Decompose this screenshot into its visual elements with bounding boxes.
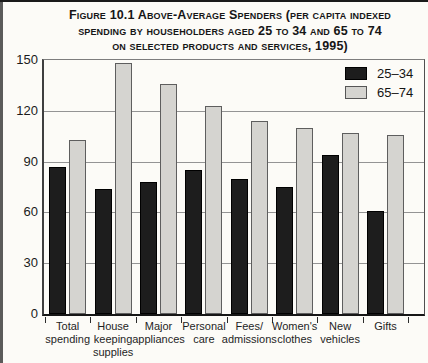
bar-age-25-34 [231,179,248,314]
legend-label: 25–34 [377,66,413,81]
plot-area: 25–34 65–74 [42,59,425,316]
bar-age-65-74 [387,135,404,314]
figure-title-line-2: spending by householders aged 25 to 34 a… [34,24,426,40]
legend-label: 65–74 [377,85,413,100]
bar-age-25-34 [276,187,293,314]
bar-age-65-74 [205,106,222,314]
figure-title-line-1: Figure 10.1 Above-Average Spenders (per … [34,8,426,24]
gridline [44,111,424,112]
bar-age-65-74 [115,63,132,314]
x-axis-label-line: supplies [80,346,146,359]
bar-age-65-74 [296,128,313,314]
legend: 25–34 65–74 [345,66,413,104]
y-axis-label: 120 [4,103,38,119]
bar-age-25-34 [49,167,66,314]
bar-age-65-74 [69,140,86,314]
bar-age-25-34 [322,155,339,314]
x-axis-label-line: vehicles [307,333,373,346]
figure-title-line-3: on selected products and services, 1995) [34,39,426,55]
y-axis-label: 90 [4,154,38,170]
bar-age-25-34 [367,211,384,314]
bar-age-25-34 [185,170,202,314]
x-axis-label-line: Gifts [353,320,419,333]
bar-age-25-34 [140,182,157,314]
bar-age-25-34 [95,189,112,314]
legend-swatch-age-25-34 [345,67,367,80]
bar-age-65-74 [160,84,177,314]
legend-swatch-age-65-74 [345,86,367,99]
gridline [44,162,424,163]
figure-title: Figure 10.1 Above-Average Spenders (per … [34,8,426,55]
x-axis-label: Gifts [353,320,419,333]
bar-age-65-74 [342,133,359,314]
x-axis: TotalspendingHousekeepingsuppliesMajorap… [0,320,428,363]
legend-item: 25–34 [345,66,413,81]
y-axis-label: 30 [4,255,38,271]
y-axis-label: 150 [4,52,38,68]
figure-panel: Figure 10.1 Above-Average Spenders (per … [0,0,428,363]
y-axis-label: 60 [4,204,38,220]
legend-item: 65–74 [345,85,413,100]
scan-edge-artifact [0,2,3,363]
bar-age-65-74 [251,121,268,314]
